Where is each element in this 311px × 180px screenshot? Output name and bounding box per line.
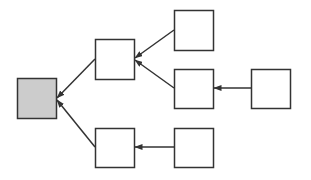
root-node — [18, 79, 57, 119]
node-a — [96, 40, 135, 80]
edges-group — [57, 30, 251, 147]
node-f — [175, 129, 214, 168]
node-c — [175, 70, 214, 109]
arrow-a-to-root — [57, 59, 95, 98]
node-box — [96, 40, 135, 80]
arrow-e-to-root — [57, 100, 95, 147]
node-box — [18, 79, 57, 119]
node-b — [175, 11, 214, 51]
diagram-svg — [0, 0, 311, 180]
node-box — [252, 70, 291, 109]
node-box — [175, 70, 214, 109]
node-box — [96, 129, 135, 168]
node-box — [175, 11, 214, 51]
node-box — [175, 129, 214, 168]
tree-diagram — [0, 0, 311, 180]
node-e — [96, 129, 135, 168]
arrow-c-to-a — [135, 60, 174, 88]
node-d — [252, 70, 291, 109]
arrow-b-to-a — [135, 30, 174, 58]
nodes-group — [18, 11, 291, 168]
